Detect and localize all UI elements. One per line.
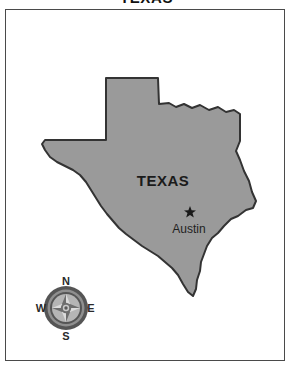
compass-label-west: W	[36, 302, 47, 314]
city-label-austin: Austin	[172, 222, 205, 236]
compass-label-south: S	[62, 330, 69, 342]
compass-label-east: E	[87, 302, 94, 314]
compass-hub-center	[64, 306, 67, 309]
map-canvas: TEXAS Austin	[0, 0, 293, 372]
compass-rose[interactable]: N E S W	[36, 275, 95, 342]
state-name-label: TEXAS	[137, 172, 190, 189]
map-page: TEXAS TEXAS Austin	[0, 0, 293, 372]
compass-label-north: N	[62, 275, 70, 287]
